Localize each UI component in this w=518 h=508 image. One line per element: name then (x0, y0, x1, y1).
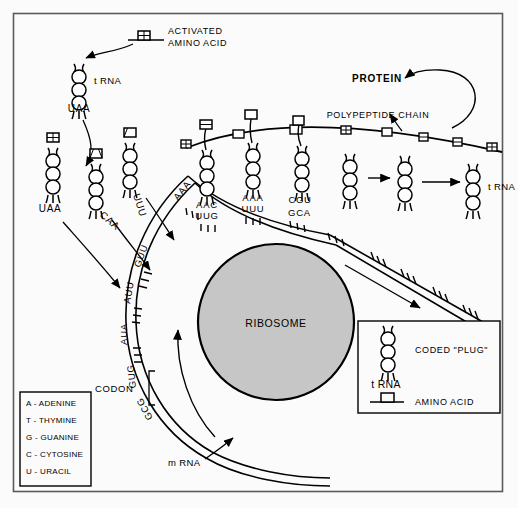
key-box: t RNA CODED "PLUG" AMINO ACID (358, 321, 500, 413)
anticodon-aaa: AAA (242, 192, 263, 203)
protein-label: PROTEIN (352, 73, 402, 84)
key-amino-acid-label: AMINO ACID (415, 397, 474, 407)
activated-amino-acid-label-line1: ACTIVATED (168, 26, 223, 36)
legend-item-adenine: A - ADENINE (26, 399, 76, 408)
ribosome-label: RIBOSOME (245, 317, 306, 329)
nucleotide-legend: A - ADENINE T - THYMINE G - GUANINE C - … (20, 392, 91, 486)
anticodon-aac: AAC (196, 199, 218, 210)
amino-acid-square (90, 149, 102, 158)
amino-acid-square (453, 138, 462, 146)
amino-acid-square (290, 125, 302, 134)
amino-acid-square (200, 120, 212, 129)
polypeptide-chain-label: POLYPEPTIDE CHAIN (327, 110, 430, 120)
diagram-canvas: RIBOSOME (0, 0, 518, 508)
amino-acid-square (419, 133, 428, 141)
amino-acid-square (124, 128, 136, 137)
anticodon-uaa-free: UAA (39, 203, 61, 214)
legend-item-uracil: U - URACIL (26, 467, 71, 476)
mrna-label: m RNA (168, 457, 201, 468)
key-trna-label: t RNA (371, 378, 401, 390)
amino-acid-square (181, 140, 191, 148)
legend-item-cytosine: C - CYTOSINE (26, 450, 83, 459)
amino-acid-square (233, 130, 244, 138)
amino-acid-square (293, 116, 304, 125)
protein-synthesis-diagram: RIBOSOME (0, 0, 518, 508)
codon-aua: AUA (118, 323, 129, 345)
legend-item-guanine: G - GUANINE (26, 433, 79, 442)
amino-acid-square (47, 133, 59, 142)
activated-amino-acid-label-line2: AMINO ACID (168, 38, 227, 48)
legend-item-thymine: T - THYMINE (26, 416, 77, 425)
codon-gca: GCA (288, 207, 311, 218)
anticodon-cgu: CGU (289, 194, 312, 205)
trna-top-label: t RNA (94, 75, 122, 86)
codon-uug: UUG (195, 210, 219, 221)
amino-acid-square (382, 128, 392, 136)
codon-label: CODON (95, 383, 133, 394)
anticodon-uaa-top: UAA (68, 103, 90, 114)
key-coded-plug-label: CODED "PLUG" (415, 345, 488, 355)
codon-uuu: UUU (242, 203, 265, 214)
trna-right-label: t RNA (488, 181, 516, 192)
amino-acid-square (341, 126, 351, 134)
amino-acid-square (487, 143, 497, 151)
amino-acid-square (245, 110, 257, 119)
